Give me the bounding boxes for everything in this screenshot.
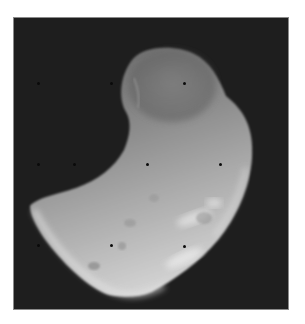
image-frame xyxy=(13,17,289,310)
reseau-mark xyxy=(110,82,113,85)
reseau-mark xyxy=(183,245,186,248)
reseau-mark xyxy=(37,244,40,247)
reseau-mark xyxy=(37,163,40,166)
reseau-mark xyxy=(37,82,40,85)
reseau-mark xyxy=(110,244,113,247)
reseau-mark xyxy=(146,163,149,166)
reseau-mark xyxy=(219,163,222,166)
reseau-mark xyxy=(183,82,186,85)
reseau-mark xyxy=(73,163,76,166)
moon-body xyxy=(14,18,289,310)
